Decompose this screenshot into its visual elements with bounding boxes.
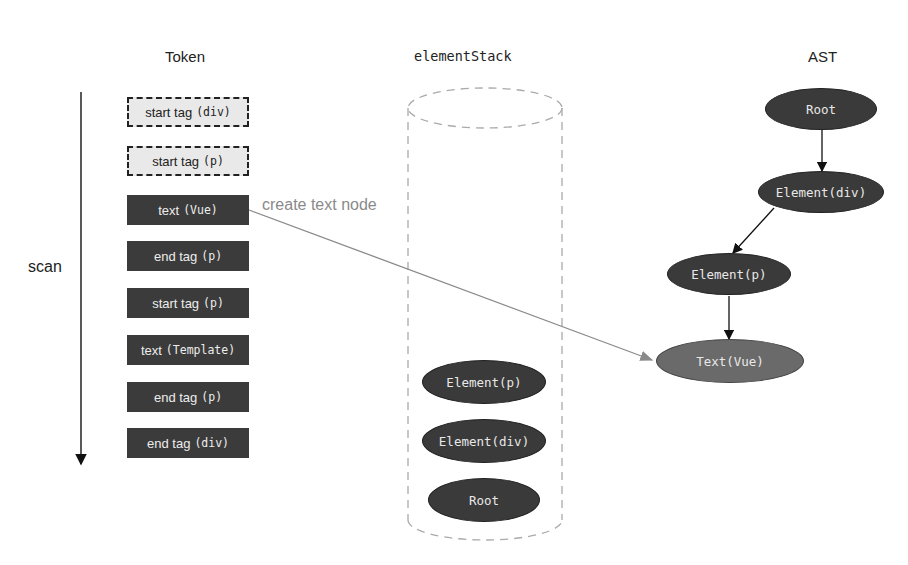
token-code: (p) — [201, 249, 222, 263]
create-text-node-label: create text node — [262, 196, 377, 214]
token-end-tag-p: end tag(p) — [127, 241, 249, 271]
edge-div-p — [733, 208, 774, 253]
ast-node-element-p: Element(p) — [667, 253, 791, 295]
token-label: end tag — [147, 436, 190, 451]
token-code: (Vue) — [183, 203, 218, 217]
token-start-tag-p-2: start tag(p) — [127, 288, 249, 318]
stack-node-root: Root — [428, 478, 540, 522]
create-text-node-arrow — [249, 210, 652, 360]
token-code: (p) — [203, 296, 224, 310]
token-label: start tag — [152, 154, 199, 169]
ast-node-root: Root — [765, 88, 877, 130]
token-code: (p) — [203, 154, 224, 168]
stack-node-element-p: Element(p) — [422, 360, 546, 404]
token-code: (p) — [201, 390, 222, 404]
token-text-vue: text(Vue) — [127, 195, 249, 225]
token-label: end tag — [154, 390, 197, 405]
element-stack-cylinder — [408, 88, 562, 540]
token-end-tag-p-2: end tag(p) — [127, 382, 249, 412]
token-end-tag-div: end tag(div) — [127, 428, 249, 458]
token-code: (Template) — [166, 343, 235, 357]
token-code: (div) — [194, 436, 229, 450]
token-label: end tag — [154, 249, 197, 264]
token-label: text — [141, 343, 162, 358]
token-text-template: text(Template) — [127, 335, 249, 365]
ast-node-element-div: Element(div) — [758, 171, 884, 213]
token-code: (div) — [196, 105, 231, 119]
token-start-tag-p: start tag(p) — [127, 146, 249, 176]
token-label: text — [158, 203, 179, 218]
ast-node-text-vue: Text(Vue) — [656, 339, 804, 383]
token-label: start tag — [152, 296, 199, 311]
stack-node-element-div: Element(div) — [422, 419, 546, 463]
token-start-tag-div: start tag(div) — [127, 97, 249, 127]
token-label: start tag — [145, 105, 192, 120]
